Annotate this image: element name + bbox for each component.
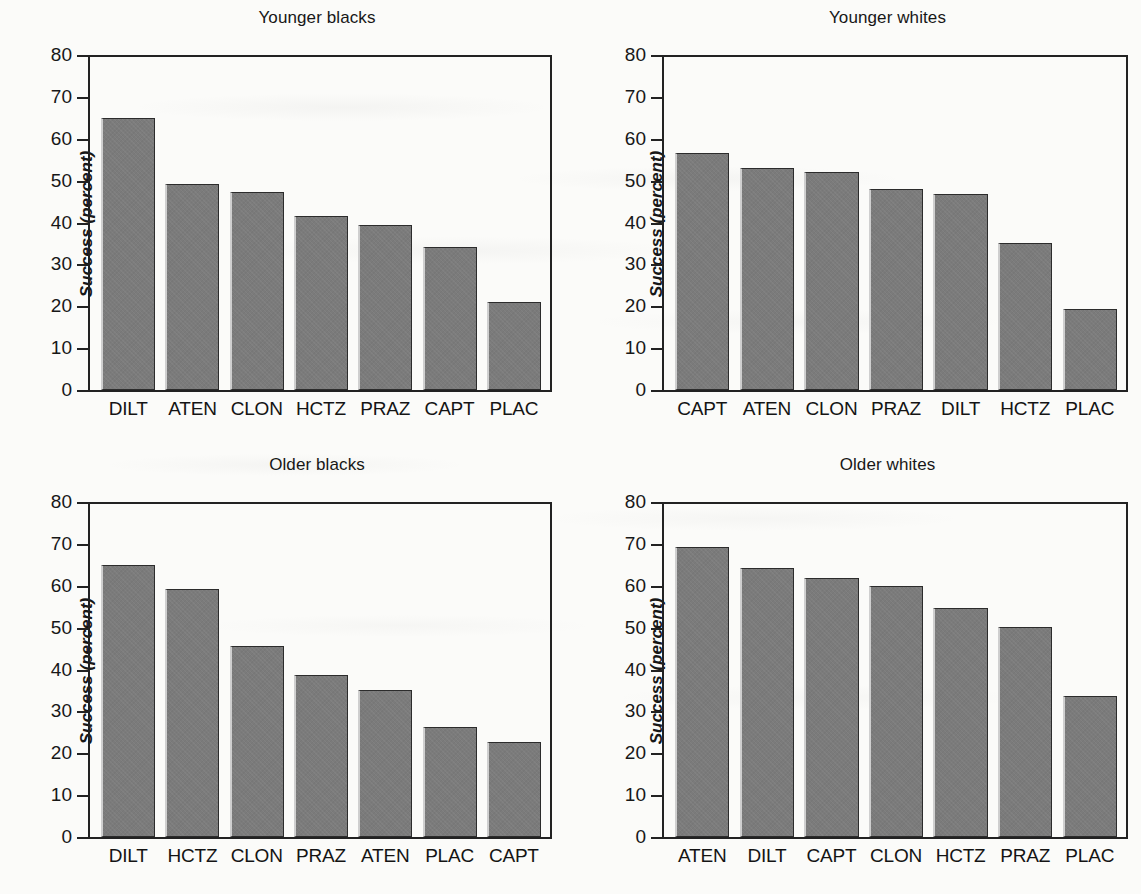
y-tick-label: 60 [51,575,72,597]
y-tick-mark [651,586,662,588]
y-tick-label: 30 [51,253,72,275]
x-tick-label: CLON [225,398,289,420]
x-tick-label: HCTZ [993,398,1058,420]
bar-series [662,55,1128,390]
bar [294,216,348,390]
bar-slot [225,502,289,837]
plot-area: 01020304050607080 [88,502,552,837]
bar-slot [993,55,1058,390]
y-tick-mark [651,628,662,630]
bar [423,727,477,837]
y-tick-label: 80 [625,44,646,66]
y-tick-label: 40 [625,659,646,681]
y-tick-mark [77,795,88,797]
y-tick-mark [77,223,88,225]
panel-title: Younger whites [570,8,1141,28]
y-tick-mark [77,264,88,266]
x-tick-label: CLON [225,845,289,867]
y-tick-mark [77,348,88,350]
y-tick-label: 50 [625,170,646,192]
bar-slot [96,502,160,837]
bar [1063,696,1117,837]
bar [998,243,1052,390]
plot-area: 01020304050607080 [662,502,1128,837]
bar-slot [482,502,546,837]
bar-slot [289,55,353,390]
y-tick-mark [77,390,88,392]
bar [165,589,219,837]
x-axis-labels: ATENDILTCAPTCLONHCTZPRAZPLAC [662,845,1128,867]
y-tick-label: 60 [51,128,72,150]
x-axis-line [79,390,552,392]
x-tick-label: ATEN [353,845,417,867]
y-tick-label: 60 [625,128,646,150]
y-tick-label: 10 [625,784,646,806]
y-tick-mark [77,97,88,99]
y-tick-label: 20 [51,742,72,764]
x-tick-label: PRAZ [353,398,417,420]
y-tick-label: 0 [61,379,72,401]
bar-slot [864,55,929,390]
bar-slot [353,502,417,837]
y-tick-mark [651,55,662,57]
y-tick-label: 20 [625,295,646,317]
y-tick-label: 70 [51,86,72,108]
x-tick-label: PLAC [417,845,481,867]
chart-panel: Younger whitesSuccess (percent)010203040… [570,0,1141,447]
bar-slot [928,55,993,390]
y-tick-label: 70 [625,533,646,555]
y-tick-label: 30 [625,700,646,722]
bar [740,168,794,390]
y-tick-label: 50 [625,617,646,639]
y-tick-label: 10 [625,337,646,359]
bar [230,192,284,390]
x-axis-labels: CAPTATENCLONPRAZDILTHCTZPLAC [662,398,1128,420]
bar [1063,309,1117,390]
bar-slot [799,502,864,837]
y-tick-label: 80 [51,491,72,513]
bar-slot [670,502,735,837]
bar [423,247,477,390]
y-tick-mark [651,795,662,797]
y-tick-mark [651,837,662,839]
x-tick-label: PRAZ [289,845,353,867]
y-tick-label: 10 [51,784,72,806]
bar [675,547,729,837]
bar [740,568,794,837]
y-tick-mark [651,711,662,713]
bar-slot [417,502,481,837]
x-tick-label: DILT [96,398,160,420]
bar [933,194,987,390]
chart-panel: Older blacksSuccess (percent)01020304050… [0,447,570,894]
x-tick-label: ATEN [735,398,800,420]
bar-slot [482,55,546,390]
x-tick-label: CAPT [670,398,735,420]
y-tick-mark [77,181,88,183]
bar [804,578,858,837]
y-tick-mark [77,544,88,546]
y-tick-mark [651,544,662,546]
bar [165,184,219,390]
bar [869,189,923,390]
x-tick-label: CAPT [799,845,864,867]
bar [358,225,412,390]
panel-title: Younger blacks [0,8,570,28]
bar [869,586,923,837]
bar-slot [735,502,800,837]
y-tick-mark [77,711,88,713]
x-tick-label: PLAC [1057,845,1122,867]
x-axis-line [79,837,552,839]
y-tick-mark [651,753,662,755]
y-tick-label: 80 [51,44,72,66]
x-axis-labels: DILTHCTZCLONPRAZATENPLACCAPT [88,845,552,867]
bar-slot [289,502,353,837]
x-tick-label: HCTZ [160,845,224,867]
y-tick-mark [651,97,662,99]
y-tick-mark [77,502,88,504]
x-tick-label: PRAZ [993,845,1058,867]
chart-panel: Younger blacksSuccess (percent)010203040… [0,0,570,447]
y-tick-label: 30 [625,253,646,275]
plot-area: 01020304050607080 [662,55,1128,390]
bar-slot [1057,502,1122,837]
x-tick-label: CAPT [482,845,546,867]
